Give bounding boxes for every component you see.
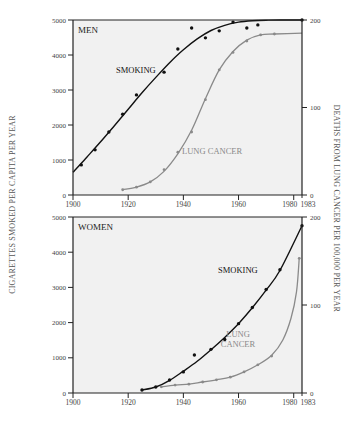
y-tick-label: 0 <box>63 192 67 200</box>
x-axis: 190019201940196019801983 <box>66 195 316 209</box>
x-tick-label: 1983 <box>301 398 316 407</box>
smoking-data-point <box>256 23 259 26</box>
smoking-data-point <box>245 26 248 29</box>
y-axis-right: 0100200 <box>302 214 321 398</box>
smoking-data-point <box>176 47 179 50</box>
panel-women: 010002000300040005000 0100200 1900192019… <box>52 214 321 408</box>
lung-cancer-data-point <box>174 384 177 387</box>
panel-men: 010002000300040005000 0100200 1900192019… <box>52 17 321 210</box>
lung-cancer-data-point <box>243 370 246 373</box>
chart-canvas: 010002000300040005000 0100200 1900192019… <box>0 0 358 426</box>
lung-cancer-data-point <box>135 186 138 189</box>
smoking-data-point <box>209 348 212 351</box>
x-tick-label: 1900 <box>66 398 81 407</box>
y2-tick-label: 0 <box>310 390 314 398</box>
lung-cancer-data-point <box>201 381 204 384</box>
y2-tick-label: 200 <box>310 214 321 222</box>
x-tick-label: 1940 <box>176 398 191 407</box>
x-tick-label: 1900 <box>66 200 81 209</box>
plot-background <box>73 217 302 393</box>
x-tick-label: 1960 <box>231 200 246 209</box>
lung-cancer-data-point <box>187 383 190 386</box>
x-tick-label: 1980 <box>282 200 297 209</box>
smoking-data-point <box>140 388 143 391</box>
lung-cancer-data-point <box>218 68 221 71</box>
lung-cancer-data-point <box>121 188 124 191</box>
x-tick-label: 1983 <box>301 200 316 209</box>
lung-cancer-data-point <box>245 40 248 43</box>
y-tick-label: 4000 <box>52 52 67 60</box>
y-tick-label: 0 <box>63 390 67 398</box>
y-tick-label: 5000 <box>52 214 67 222</box>
y-tick-label: 3000 <box>52 284 67 292</box>
smoking-data-point <box>193 353 196 356</box>
y-tick-label: 2000 <box>52 319 67 327</box>
panel-title-women: WOMEN <box>78 222 113 232</box>
y-axis-right: 0100200 <box>302 17 321 200</box>
label-smoking-women: SMOKING <box>218 265 258 275</box>
panel-title-men: MEN <box>78 25 99 35</box>
smoking-data-point <box>121 112 124 115</box>
smoking-data-point <box>278 268 281 271</box>
x-tick-label: 1960 <box>231 398 246 407</box>
y2-tick-label: 100 <box>310 302 321 310</box>
lung-cancer-data-point <box>232 51 235 54</box>
y-tick-label: 5000 <box>52 17 67 25</box>
lung-cancer-data-point <box>149 180 152 183</box>
smoking-data-point <box>80 163 83 166</box>
x-tick-label: 1940 <box>176 200 191 209</box>
smoking-data-point <box>251 306 254 309</box>
lung-cancer-data-point <box>229 376 232 379</box>
smoking-data-point <box>93 148 96 151</box>
smoking-data-point <box>237 322 240 325</box>
smoking-data-point <box>182 370 185 373</box>
y-axis-left: 010002000300040005000 <box>52 214 73 398</box>
smoking-data-point <box>264 288 267 291</box>
lung-cancer-data-point <box>270 355 273 358</box>
label-lung-cancer-women-line2: CANCER <box>221 339 256 349</box>
lung-cancer-data-point <box>298 257 301 260</box>
left-axis-title: CIGARETTES SMOKED PER CAPITA PER YEAR <box>8 115 17 295</box>
x-tick-label: 1980 <box>282 398 297 407</box>
y-tick-label: 2000 <box>52 122 67 130</box>
y-tick-label: 1000 <box>52 157 67 165</box>
y-axis-left: 010002000300040005000 <box>52 17 73 200</box>
label-lung-cancer-men: LUNG CANCER <box>182 146 243 156</box>
lung-cancer-data-point <box>163 168 166 171</box>
lung-cancer-data-point <box>204 98 207 101</box>
x-axis: 190019201940196019801983 <box>66 393 316 407</box>
lung-cancer-data-point <box>176 151 179 154</box>
smoking-data-point <box>190 26 193 29</box>
x-tick-label: 1920 <box>121 200 136 209</box>
smoking-data-point <box>218 29 221 32</box>
smoking-data-point <box>162 70 165 73</box>
smoking-data-point <box>135 93 138 96</box>
figure: 010002000300040005000 0100200 1900192019… <box>0 0 358 426</box>
y2-tick-label: 200 <box>310 17 321 25</box>
lung-cancer-data-point <box>256 363 259 366</box>
lung-cancer-data-point <box>190 131 193 134</box>
smoking-data-point <box>168 378 171 381</box>
y2-tick-label: 100 <box>310 104 321 112</box>
lung-cancer-data-point <box>259 33 262 36</box>
smoking-data-point <box>204 36 207 39</box>
y-tick-label: 1000 <box>52 354 67 362</box>
x-tick-label: 1920 <box>121 398 136 407</box>
label-smoking-men: SMOKING <box>116 65 156 75</box>
lung-cancer-data-point <box>273 33 276 36</box>
y-tick-label: 4000 <box>52 249 67 257</box>
y2-tick-label: 0 <box>310 192 314 200</box>
lung-cancer-data-point <box>215 378 218 381</box>
right-axis-title: DEATHS FROM LUNG CANCER PER 100,000 PER … <box>332 105 341 305</box>
label-lung-cancer-women-line1: LUNG <box>226 329 250 339</box>
y-tick-label: 3000 <box>52 87 67 95</box>
smoking-data-point <box>107 130 110 133</box>
lung-cancer-data-point <box>160 385 163 388</box>
smoking-data-point <box>154 385 157 388</box>
smoking-data-point <box>231 20 234 23</box>
